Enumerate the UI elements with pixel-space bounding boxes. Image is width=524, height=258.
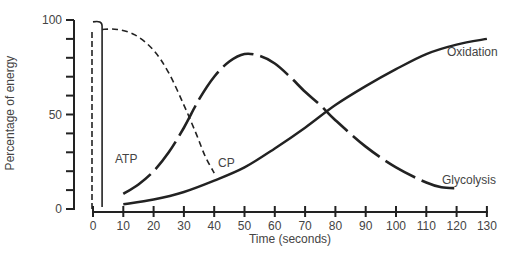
x-tick-label: 10 [117,219,131,233]
glycolysis-curve [123,54,456,194]
oxidation-label: Oxidation [447,45,498,59]
x-tick-label: 50 [238,219,252,233]
energy-systems-chart: Percentage of energy 100 50 0 0102030405… [0,0,524,258]
y-axis: 100 50 0 [42,13,74,216]
x-axis: 0102030405060708090100110120130 [90,206,498,233]
x-tick-label: 90 [359,219,373,233]
atp-solid-curve [93,21,102,207]
x-axis-title: Time (seconds) [249,232,331,246]
atp-label: ATP [115,152,137,166]
y-tick-label-0: 0 [55,202,62,216]
y-tick-label-100: 100 [42,13,62,27]
y-tick-label-50: 50 [49,108,63,122]
cp-label: CP [218,156,235,170]
x-tick-label: 100 [386,219,406,233]
x-tick-label: 70 [298,219,312,233]
x-tick-label: 120 [447,219,467,233]
y-axis-title: Percentage of energy [3,56,17,171]
x-tick-label: 110 [417,219,436,233]
x-tick-label: 20 [147,219,161,233]
glycolysis-label: Glycolysis [442,173,496,187]
x-tick-label: 40 [208,219,222,233]
x-tick-label: 60 [268,219,282,233]
y-ticks [66,20,74,209]
x-tick-label: 0 [90,219,97,233]
x-tick-label: 80 [329,219,343,233]
x-tick-label: 130 [477,219,497,233]
curves [92,21,487,209]
oxidation-curve [123,39,487,204]
x-tick-labels: 0102030405060708090100110120130 [90,219,498,233]
x-tick-label: 30 [177,219,191,233]
